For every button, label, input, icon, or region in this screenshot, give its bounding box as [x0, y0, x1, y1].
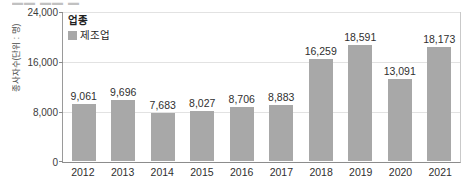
x-axis-tick-2016: 2016 — [222, 166, 262, 178]
bar-value-label: 7,683 — [150, 99, 176, 111]
tickmark-24000 — [59, 12, 63, 13]
x-axis-tick-2018: 2018 — [301, 166, 341, 178]
plot-area: 9,0619,6967,6838,0278,7068,88316,25918,5… — [62, 12, 461, 163]
bar[interactable]: 8,706 — [230, 107, 254, 161]
bar[interactable]: 9,061 — [72, 104, 96, 161]
bar-value-label: 18,173 — [423, 33, 455, 45]
y-axis-tick-labels: 24,000 16,000 8,000 0 — [10, 0, 58, 191]
bar-slot: 13,091 — [380, 12, 420, 161]
x-axis-tick-2020: 2020 — [381, 166, 421, 178]
bar[interactable]: 13,091 — [388, 79, 412, 161]
bar[interactable]: 9,696 — [111, 100, 135, 161]
x-axis-tick-2013: 2013 — [103, 166, 143, 178]
tickmark-0 — [59, 161, 63, 162]
legend: 업종 제조업 — [68, 15, 110, 41]
bar-series-manufacturing: 9,0619,6967,6838,0278,7068,88316,25918,5… — [64, 12, 459, 161]
bar-value-label: 18,591 — [344, 31, 376, 43]
bar-slot: 8,027 — [183, 12, 223, 161]
bar[interactable]: 8,883 — [269, 105, 293, 161]
x-axis-tick-2021: 2021 — [420, 166, 460, 178]
legend-item-label: 제조업 — [80, 30, 110, 42]
bar-slot: 16,259 — [301, 12, 341, 161]
bar-slot: 18,173 — [420, 12, 460, 161]
bar-slot: 18,591 — [341, 12, 381, 161]
legend-title: 업종 — [68, 15, 110, 27]
bar-value-label: 8,883 — [268, 91, 294, 103]
bar-value-label: 9,061 — [71, 90, 97, 102]
bar[interactable]: 8,027 — [190, 111, 214, 161]
bar-slot: 8,706 — [222, 12, 262, 161]
tickmark-16000 — [59, 62, 63, 63]
legend-item-manufacturing: 제조업 — [68, 30, 110, 42]
x-axis-tick-2017: 2017 — [262, 166, 302, 178]
y-axis-tick-0: 0 — [14, 158, 58, 168]
bar[interactable]: 18,591 — [348, 45, 372, 161]
x-axis-tick-2014: 2014 — [142, 166, 182, 178]
x-axis-tick-2012: 2012 — [63, 166, 103, 178]
bar-value-label: 9,696 — [110, 86, 136, 98]
y-axis-tick-24000: 24,000 — [14, 8, 58, 18]
bar[interactable]: 18,173 — [427, 47, 451, 161]
x-axis-tick-2019: 2019 — [341, 166, 381, 178]
y-axis-tick-16000: 16,000 — [14, 58, 58, 68]
legend-swatch-icon — [68, 31, 77, 40]
x-axis-tick-2015: 2015 — [182, 166, 222, 178]
bar-value-label: 13,091 — [384, 65, 416, 77]
tickmark-8000 — [59, 112, 63, 113]
y-axis-tick-8000: 8,000 — [14, 108, 58, 118]
bar[interactable]: 7,683 — [151, 113, 175, 161]
bar-value-label: 8,706 — [229, 93, 255, 105]
x-axis-tick-labels: 2012201320142015201620172018201920202021 — [63, 166, 460, 178]
bar-value-label: 8,027 — [189, 97, 215, 109]
bar-slot: 8,883 — [262, 12, 302, 161]
bar[interactable]: 16,259 — [309, 59, 333, 161]
bar-value-label: 16,259 — [305, 45, 337, 57]
bar-chart: ▬▬ ▬▬ ▬ 종사자수(단위 : 명) 24,000 16,000 8,000… — [0, 0, 471, 191]
bar-slot: 7,683 — [143, 12, 183, 161]
